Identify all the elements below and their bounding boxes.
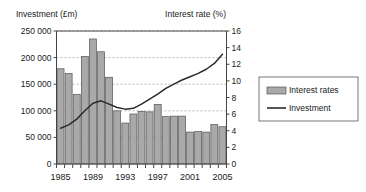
chart-legend: Interest ratesInvestment — [259, 77, 358, 121]
legend-bar-swatch-icon — [267, 87, 286, 94]
left-tick-label: 0 — [47, 159, 52, 169]
x-tick-label-1993: 1993 — [115, 172, 135, 182]
bar-1985 — [57, 69, 64, 164]
legend-box — [259, 77, 358, 121]
bar-2000 — [179, 116, 186, 164]
right-tick-label: 6 — [232, 109, 237, 119]
chart-figure: 050 000100 000150 000200 000250 000 0246… — [0, 0, 366, 192]
bar-1987 — [73, 94, 80, 164]
left-tick-label: 250 000 — [21, 26, 52, 36]
right-tick-label: 2 — [232, 142, 237, 152]
bar-1994 — [130, 114, 137, 164]
bar-2005 — [219, 127, 226, 164]
right-tick-label: 12 — [232, 59, 242, 69]
bar-1992 — [114, 111, 121, 164]
left-tick-label: 100 000 — [21, 106, 52, 116]
right-axis-title: Interest rate (%) — [165, 9, 226, 19]
x-tick-label-1997: 1997 — [148, 172, 168, 182]
legend-label: Interest rates — [289, 85, 339, 95]
bar-1996 — [146, 112, 153, 164]
bar-1999 — [170, 116, 177, 164]
left-tick-label: 50 000 — [26, 132, 52, 142]
right-tick-label: 10 — [232, 76, 242, 86]
bar-2001 — [187, 132, 194, 164]
bar-1989 — [89, 39, 96, 164]
right-tick-label: 8 — [232, 93, 237, 103]
bar-1993 — [122, 123, 129, 164]
left-tick-label: 150 000 — [21, 79, 52, 89]
bar-1990 — [98, 52, 105, 164]
x-tick-label-1985: 1985 — [51, 172, 71, 182]
right-tick-label: 0 — [232, 159, 237, 169]
bar-2002 — [195, 132, 202, 164]
right-tick-label: 14 — [232, 43, 242, 53]
bar-1998 — [162, 117, 169, 164]
bar-2003 — [203, 132, 210, 164]
left-axis-title: Investment (£m) — [16, 9, 78, 19]
bar-1986 — [65, 74, 72, 164]
right-tick-label: 4 — [232, 126, 237, 136]
x-tick-label-2005: 2005 — [212, 172, 232, 182]
right-tick-label: 16 — [232, 26, 242, 36]
bar-1995 — [138, 111, 145, 164]
bar-1997 — [154, 104, 161, 164]
x-tick-label-2001: 2001 — [180, 172, 200, 182]
investment-interest-rate-chart: 050 000100 000150 000200 000250 000 0246… — [0, 0, 366, 192]
left-tick-label: 200 000 — [21, 53, 52, 63]
x-tick-label-1989: 1989 — [83, 172, 103, 182]
bar-1991 — [106, 77, 113, 164]
bar-2004 — [211, 125, 218, 164]
legend-label: Investment — [289, 103, 331, 113]
